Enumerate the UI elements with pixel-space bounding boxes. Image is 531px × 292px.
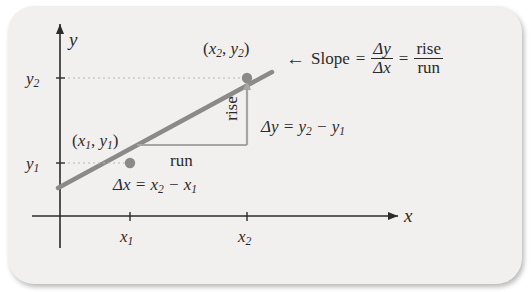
slope-arrow-icon: ← — [286, 49, 305, 68]
delta-y-minus: − y — [312, 117, 340, 136]
slope-fraction-delta: Δy Δx — [371, 40, 393, 77]
x1-tick-label-base: x — [120, 227, 128, 246]
delta-y-annotation: Δy = y2 − y1 — [261, 118, 345, 138]
slope-equals-2: = — [399, 50, 409, 67]
y-axis-label: y — [69, 30, 77, 49]
point-1-label-x-sub: 1 — [85, 139, 91, 152]
slope-fraction-riserun: rise run — [414, 40, 443, 77]
y2-tick-label-base: y — [26, 69, 34, 88]
delta-x-annotation: Δx = x2 − x1 — [113, 176, 197, 196]
slope-line — [58, 72, 272, 188]
delta-y-text: Δy = y — [261, 117, 306, 136]
y1-tick-label-base: y — [26, 154, 34, 173]
slope-callout: ← Slope = Δy Δx = rise run — [286, 40, 443, 77]
figure-container: y x x1 x2 y1 y2 (x1, y1) (x2, y2) run ri… — [0, 0, 531, 292]
delta-x-minus: − x — [164, 175, 192, 194]
slope-fraction-delta-den: Δx — [371, 59, 393, 77]
point-1-marker — [125, 158, 135, 168]
slope-fraction-riserun-den: run — [414, 59, 443, 77]
rise-label: rise — [223, 96, 240, 121]
x-axis-label: x — [404, 206, 412, 225]
run-label: run — [170, 152, 193, 169]
x2-tick-label-base: x — [238, 227, 246, 246]
x1-tick-label: x1 — [120, 228, 133, 248]
x-axis-arrowhead — [388, 212, 398, 220]
delta-x-text: Δx = x — [113, 175, 158, 194]
y1-tick-label: y1 — [26, 155, 39, 175]
point-2-marker — [242, 73, 252, 83]
x2-tick-label: x2 — [238, 228, 251, 248]
delta-y-sub2: 1 — [339, 125, 345, 138]
slope-fraction-delta-num: Δy — [371, 40, 393, 59]
slope-fraction-riserun-num: rise — [414, 40, 443, 59]
x2-tick-label-sub: 2 — [246, 235, 252, 248]
delta-x-sub2: 1 — [191, 183, 197, 196]
point-1-label: (x1, y1) — [72, 132, 119, 152]
slope-word: Slope — [311, 50, 350, 67]
slope-equals-1: = — [356, 50, 366, 67]
point-1-label-y: y — [100, 131, 108, 150]
y1-tick-label-sub: 1 — [34, 162, 40, 175]
y-axis-arrowhead — [56, 24, 64, 34]
y2-tick-label: y2 — [26, 70, 39, 90]
point-2-label-y-sub: 2 — [238, 47, 244, 60]
point-2-label: (x2, y2) — [203, 40, 250, 60]
point-2-label-x-sub: 2 — [216, 47, 222, 60]
point-1-label-y-sub: 1 — [107, 139, 113, 152]
y2-tick-label-sub: 2 — [34, 77, 40, 90]
point-2-label-y: y — [231, 39, 239, 58]
x1-tick-label-sub: 1 — [128, 235, 134, 248]
